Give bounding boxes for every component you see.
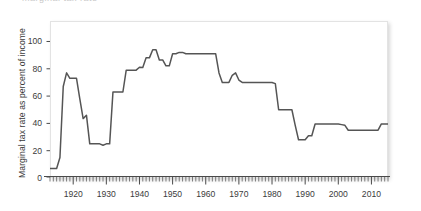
y-axis-tick-label: 20	[16, 147, 42, 155]
series-line-chart	[50, 21, 388, 178]
y-axis-tick-label: 80	[16, 65, 42, 73]
y-axis-tick-label: 40	[16, 119, 42, 127]
x-axis	[44, 176, 390, 188]
x-axis-tick-labels: 1920193019401950196019701980199020002010	[0, 190, 421, 204]
y-axis-tick-label: 60	[16, 92, 42, 100]
x-axis-tick-label: 2010	[351, 190, 391, 199]
y-axis-tick-label: 100	[16, 37, 42, 45]
series-line-0	[50, 50, 388, 169]
y-axis-tick-label: 0	[16, 174, 42, 182]
y-axis-tick-labels: 020406080100	[12, 0, 42, 211]
chart-figure: marginal tax rate Marginal tax rate as p…	[0, 0, 421, 211]
plot-shell	[50, 21, 388, 178]
